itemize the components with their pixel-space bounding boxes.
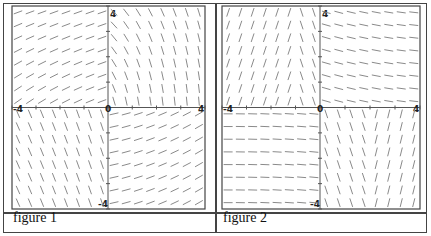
slope-segment	[76, 160, 79, 168]
slope-segment	[52, 173, 55, 181]
slope-segment	[198, 33, 200, 42]
origin-label: 0	[105, 104, 111, 114]
slope-segment	[400, 109, 402, 118]
slope-segment	[137, 71, 140, 80]
slope-segment	[26, 48, 34, 52]
slope-segment	[384, 50, 393, 51]
slope-segment	[347, 75, 356, 77]
slope-segment	[375, 173, 377, 182]
slope-segment	[148, 8, 152, 16]
slope-segment	[38, 48, 46, 52]
slope-segment	[52, 135, 55, 143]
slope-segment	[38, 23, 46, 26]
slope-segment	[288, 84, 291, 93]
slope-segment	[86, 74, 94, 77]
caption-figure-1: figure 1	[13, 210, 57, 226]
slope-segment	[362, 198, 365, 207]
slope-segment	[276, 59, 279, 68]
slope-segment	[312, 59, 315, 68]
slope-segment	[62, 36, 70, 39]
slope-segment	[64, 198, 67, 206]
slope-segment	[350, 198, 353, 207]
slope-segment	[86, 49, 94, 52]
slope-segment	[50, 49, 58, 53]
slope-segment	[347, 49, 356, 51]
slope-segment	[273, 164, 282, 165]
slope-segment	[161, 46, 164, 55]
slope-segment	[359, 24, 368, 26]
slope-segment	[89, 160, 92, 168]
slope-field-figure-2: -444-40	[219, 3, 424, 213]
slope-segment	[300, 72, 303, 81]
slope-segment	[186, 33, 188, 42]
slope-segment	[64, 160, 67, 168]
slope-segment	[334, 37, 343, 39]
slope-segment	[297, 152, 306, 153]
slope-segment	[375, 148, 377, 157]
slope-segment	[183, 150, 191, 154]
slope-segment	[174, 59, 176, 68]
slope-segment	[146, 176, 154, 179]
slope-segment	[62, 74, 70, 78]
slope-segment	[16, 135, 20, 143]
slope-segment	[362, 122, 365, 131]
slope-segment	[122, 201, 131, 203]
slope-segment	[38, 36, 46, 40]
slope-segment	[309, 190, 318, 191]
slope-segment	[149, 34, 152, 42]
slope-segment	[309, 177, 318, 178]
slope-segment	[195, 124, 203, 128]
slope-segment	[38, 74, 46, 78]
slope-segment	[334, 87, 343, 89]
slope-segment	[101, 135, 104, 144]
slope-segment	[86, 61, 94, 64]
slope-segment	[312, 21, 315, 30]
slope-segment	[400, 148, 402, 157]
slope-segment	[251, 84, 254, 93]
slope-segment	[198, 46, 200, 55]
slope-segment	[384, 100, 393, 101]
slope-segment	[173, 21, 176, 30]
slope-segment	[334, 62, 343, 64]
slope-segment	[227, 8, 230, 17]
slope-segment	[183, 137, 191, 141]
slope-segment	[350, 186, 353, 195]
slope-segment	[64, 173, 67, 181]
slope-segment	[124, 59, 128, 67]
slope-segment	[122, 113, 131, 115]
slope-segment	[195, 188, 203, 192]
slope-segment	[285, 126, 294, 127]
slope-segment	[362, 135, 365, 144]
slope-segment	[158, 163, 166, 167]
slope-segment	[101, 110, 104, 119]
slope-segment	[413, 122, 415, 131]
slope-segment	[134, 189, 143, 192]
slope-segment	[227, 72, 230, 81]
slope-segment	[263, 21, 266, 30]
slope-segment	[227, 59, 230, 68]
slope-segment	[52, 110, 55, 118]
slope-segment	[273, 114, 282, 115]
slope-segment	[334, 49, 343, 51]
slope-segment	[134, 112, 143, 115]
slope-segment	[273, 152, 282, 153]
slope-segment	[397, 101, 406, 102]
slope-segment	[134, 125, 143, 128]
slope-segment	[409, 88, 418, 89]
slope-segment	[38, 61, 46, 65]
slope-segment	[322, 36, 331, 38]
slope-segment	[372, 62, 381, 64]
slope-segment	[263, 46, 266, 55]
caption-figure-2: figure 2	[223, 210, 267, 226]
slope-segment	[146, 163, 154, 166]
slope-segment	[337, 198, 340, 207]
slope-segment	[111, 22, 117, 29]
slope-segment	[38, 86, 46, 90]
slope-segment	[101, 186, 104, 195]
slope-segment	[101, 148, 104, 157]
slope-segment	[14, 23, 22, 26]
slope-segment	[312, 33, 315, 42]
slope-segment	[322, 49, 331, 51]
slope-segment	[397, 75, 406, 76]
slope-segment	[186, 84, 187, 93]
